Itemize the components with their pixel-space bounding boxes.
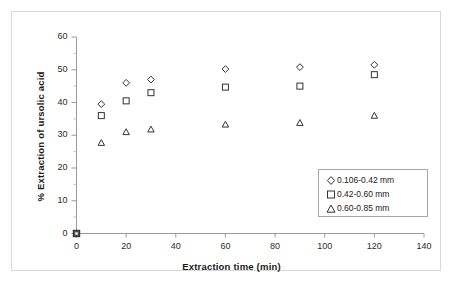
data-point	[297, 83, 303, 89]
data-point	[371, 112, 377, 118]
data-point	[296, 64, 303, 71]
diamond-marker-icon	[325, 175, 337, 186]
series-markers-triangle	[98, 112, 377, 145]
data-point	[148, 90, 154, 96]
legend-label: 0.60-0.85 mm	[337, 203, 389, 214]
data-point	[222, 66, 229, 73]
data-point	[371, 72, 377, 78]
data-point	[371, 61, 378, 68]
square-marker-icon	[325, 189, 337, 200]
data-point	[98, 101, 105, 108]
x-axis-tick-label: 0	[62, 241, 92, 251]
x-axis-tick-label: 20	[111, 241, 141, 251]
x-axis-tick-label: 140	[409, 241, 439, 251]
x-axis-major-ticks	[77, 234, 425, 238]
data-point	[148, 76, 155, 83]
x-axis-tick-label: 100	[310, 241, 340, 251]
data-point	[98, 113, 104, 119]
data-point	[123, 129, 129, 135]
y-axis-title: % Extraction of ursolic acid	[35, 37, 46, 237]
y-axis-major-ticks	[72, 37, 77, 234]
x-axis-title: Extraction time (min)	[0, 261, 463, 272]
data-point	[222, 121, 228, 127]
legend-item: 0.106-0.42 mm	[325, 174, 427, 187]
data-point	[123, 79, 130, 86]
data-point	[123, 98, 129, 104]
x-axis-tick-label: 60	[210, 241, 240, 251]
x-axis-tick-label: 40	[161, 241, 191, 251]
x-axis-tick-label: 120	[359, 241, 389, 251]
triangle-marker-icon	[325, 203, 337, 214]
series-markers-square	[98, 72, 377, 119]
series-markers-diamond	[98, 61, 378, 107]
origin-overlap-marker	[73, 230, 79, 236]
chart-legend: 0.106-0.42 mm 0.42-0.60 mm 0.60-0.85 mm	[318, 169, 428, 217]
legend-label: 0.42-0.60 mm	[337, 189, 389, 200]
legend-item: 0.60-0.85 mm	[325, 202, 427, 215]
legend-label: 0.106-0.42 mm	[337, 175, 394, 186]
x-axis-tick-label: 80	[260, 241, 290, 251]
data-point	[148, 126, 154, 132]
data-point	[297, 120, 303, 126]
chart-figure: 0102030405060 020406080100120140 % Extra…	[0, 0, 463, 293]
data-point	[98, 140, 104, 146]
data-point	[222, 84, 228, 90]
origin-marker-highlight	[75, 232, 77, 234]
legend-item: 0.42-0.60 mm	[325, 188, 427, 201]
